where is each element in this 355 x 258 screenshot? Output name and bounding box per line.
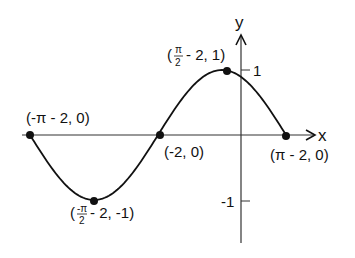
svg-text:-π: -π [77, 203, 87, 214]
label-neg-2: (-2, 0) [164, 143, 204, 160]
svg-text:(: ( [167, 46, 172, 63]
sine-graph: x y 1 -1 (-π - 2, 0) (-2, 0) (π - 2, 0) … [0, 0, 355, 258]
point-neg-pi-minus-2 [26, 131, 34, 139]
y-axis-label: y [235, 13, 244, 32]
svg-text:2: 2 [175, 57, 181, 68]
label-peak: ( π 2 - 2, 1) [167, 44, 225, 68]
y-tick-label-neg1: -1 [221, 193, 234, 210]
svg-text:π: π [175, 44, 182, 55]
point-peak [223, 67, 231, 75]
svg-text:- 2, 1): - 2, 1) [186, 46, 225, 63]
label-trough: ( -π 2 - 2, -1) [70, 203, 134, 226]
svg-text:- 2, -1): - 2, -1) [90, 204, 134, 221]
svg-text:(: ( [70, 204, 75, 221]
label-neg-pi-minus-2: (-π - 2, 0) [26, 109, 90, 126]
svg-text:2: 2 [79, 215, 85, 226]
x-axis-label: x [318, 126, 327, 145]
point-pi-minus-2 [282, 132, 290, 140]
label-pi-minus-2: (π - 2, 0) [270, 146, 329, 163]
graph-canvas: x y 1 -1 (-π - 2, 0) (-2, 0) (π - 2, 0) … [0, 0, 355, 258]
y-tick-label-1: 1 [253, 62, 261, 79]
point-neg-2 [156, 131, 164, 139]
